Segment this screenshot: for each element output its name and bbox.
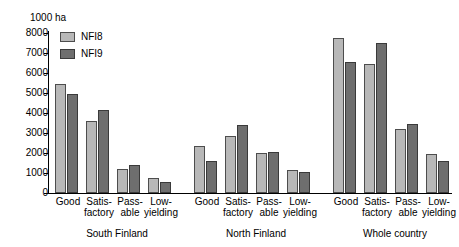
bar-nfi9 <box>206 161 217 193</box>
y-tick-mark <box>44 193 49 194</box>
x-axis-line <box>48 193 452 194</box>
group-label: South Finland <box>47 228 187 239</box>
category-label-line: Good <box>329 196 363 207</box>
bar-nfi9 <box>438 161 449 193</box>
category-label-line: factory <box>82 207 116 218</box>
category-label-line: Low- <box>283 196 317 207</box>
bar-nfi8 <box>194 146 205 193</box>
category-label-line: factory <box>221 207 255 218</box>
group-label: Whole country <box>325 228 459 239</box>
category-label: Good <box>51 196 85 207</box>
category-label: Good <box>329 196 363 207</box>
bar-cluster <box>147 33 175 193</box>
category-label: Good <box>190 196 224 207</box>
category-label-line: Pass- <box>391 196 425 207</box>
bar-nfi9 <box>407 124 418 193</box>
y-tick-label: 2000 <box>4 148 48 158</box>
bar-cluster <box>286 33 314 193</box>
category-label-line: Satis- <box>82 196 116 207</box>
bar-nfi8 <box>256 153 267 193</box>
y-tick-label: 0 <box>4 188 48 198</box>
bar-cluster <box>363 33 391 193</box>
category-label-line: yielding <box>283 207 317 218</box>
category-label: Low-yielding <box>422 196 456 218</box>
category-label: Satis-factory <box>82 196 116 218</box>
category-label: Satis-factory <box>221 196 255 218</box>
y-tick-label: 3000 <box>4 128 48 138</box>
bar-nfi8 <box>333 38 344 193</box>
category-label-line: Satis- <box>360 196 394 207</box>
category-label-line: factory <box>360 207 394 218</box>
bar-nfi8 <box>426 154 437 193</box>
bar-nfi9 <box>376 43 387 193</box>
category-label: Pass-able <box>113 196 147 218</box>
bar-nfi8 <box>364 64 375 193</box>
bar-cluster <box>116 33 144 193</box>
category-label: Pass-able <box>252 196 286 218</box>
category-label-line: yielding <box>144 207 178 218</box>
bar-nfi9 <box>98 110 109 193</box>
legend-label-nfi8: NFI8 <box>81 32 103 42</box>
category-label-line: Good <box>190 196 224 207</box>
bar-nfi8 <box>395 129 406 193</box>
y-axis-unit-label: 1000 ha <box>30 12 66 23</box>
bar-nfi9 <box>160 182 171 193</box>
bar-nfi8 <box>225 136 236 193</box>
bar-nfi9 <box>67 94 78 193</box>
bar-cluster <box>224 33 252 193</box>
y-tick-label: 5000 <box>4 88 48 98</box>
category-label: Low-yielding <box>283 196 317 218</box>
bar-cluster <box>425 33 453 193</box>
category-label-line: able <box>391 207 425 218</box>
bar-nfi9 <box>345 62 356 193</box>
legend-item-nfi9: NFI9 <box>60 47 103 61</box>
category-label: Low-yielding <box>144 196 178 218</box>
category-label-line: yielding <box>422 207 456 218</box>
y-tick-label: 1000 <box>4 168 48 178</box>
y-tick-label: 4000 <box>4 108 48 118</box>
legend-item-nfi8: NFI8 <box>60 30 103 44</box>
category-label-line: Pass- <box>252 196 286 207</box>
bar-nfi9 <box>299 172 310 193</box>
bar-nfi9 <box>129 165 140 193</box>
bar-nfi8 <box>86 121 97 193</box>
y-tick-label: 8000 <box>4 28 48 38</box>
bar-group <box>193 33 319 193</box>
category-label: Pass-able <box>391 196 425 218</box>
bar-group <box>332 33 458 193</box>
legend: NFI8 NFI9 <box>60 30 103 64</box>
category-label: Satis-factory <box>360 196 394 218</box>
y-tick-label: 7000 <box>4 48 48 58</box>
y-tick-label: 6000 <box>4 68 48 78</box>
group-label: North Finland <box>186 228 326 239</box>
bar-nfi8 <box>117 169 128 193</box>
category-label-line: Satis- <box>221 196 255 207</box>
bar-cluster <box>394 33 422 193</box>
bar-nfi9 <box>237 125 248 193</box>
category-label-line: Low- <box>144 196 178 207</box>
legend-swatch-nfi9 <box>60 49 75 59</box>
bar-nfi8 <box>287 170 298 193</box>
bar-chart: 1000 ha 80007000600050004000300020001000… <box>0 0 459 247</box>
bar-nfi8 <box>148 178 159 193</box>
legend-swatch-nfi8 <box>60 32 75 42</box>
bar-nfi9 <box>268 152 279 193</box>
plot-area <box>48 33 452 193</box>
category-label-line: Pass- <box>113 196 147 207</box>
bar-cluster <box>332 33 360 193</box>
category-label-line: able <box>252 207 286 218</box>
category-label-line: Good <box>51 196 85 207</box>
bar-nfi8 <box>55 84 66 193</box>
category-label-line: Low- <box>422 196 456 207</box>
bar-cluster <box>193 33 221 193</box>
bar-cluster <box>255 33 283 193</box>
category-label-line: able <box>113 207 147 218</box>
legend-label-nfi9: NFI9 <box>81 49 103 59</box>
